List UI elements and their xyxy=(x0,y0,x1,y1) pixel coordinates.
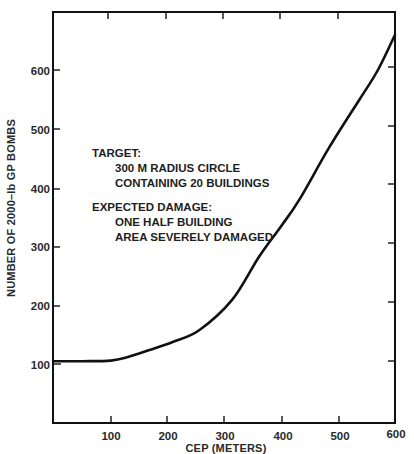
annotation-damage-heading: EXPECTED DAMAGE: xyxy=(92,201,212,213)
x-ticks-top xyxy=(108,12,338,19)
annotation-target-heading: TARGET: xyxy=(92,147,141,159)
x-tick-labels: 100 200 300 400 500 600 xyxy=(101,428,405,442)
x-tick-label: 500 xyxy=(330,430,349,442)
data-line xyxy=(54,35,395,362)
y-tick-label: 500 xyxy=(31,124,50,136)
y-tick-label: 100 xyxy=(31,359,50,371)
annotation-damage-line2: AREA SEVERELY DAMAGED xyxy=(115,231,273,243)
y-ticks-right xyxy=(388,67,395,361)
x-tick-label: 300 xyxy=(215,430,234,442)
y-axis-title: NUMBER OF 2000–lb GP BOMBS xyxy=(5,119,17,297)
annotation-block: TARGET: 300 M RADIUS CIRCLE CONTAINING 2… xyxy=(92,147,273,243)
x-tick-label: 200 xyxy=(158,430,177,442)
y-tick-label: 200 xyxy=(31,300,50,312)
x-tick-label: 400 xyxy=(273,430,292,442)
chart: 100 200 300 400 500 600 100 200 300 400 … xyxy=(0,0,414,454)
y-tick-label: 300 xyxy=(31,241,50,253)
y-ticks-left xyxy=(53,70,61,364)
x-tick-label: 600 xyxy=(386,428,405,440)
y-tick-label: 400 xyxy=(31,183,50,195)
y-tick-labels: 100 200 300 400 500 600 xyxy=(31,65,50,371)
y-tick-label: 600 xyxy=(31,65,50,77)
x-ticks-bottom xyxy=(111,416,339,423)
x-tick-label: 100 xyxy=(101,430,120,442)
annotation-damage-line1: ONE HALF BUILDING xyxy=(115,216,233,228)
annotation-target-line2: CONTAINING 20 BUILDINGS xyxy=(115,177,270,189)
x-axis-title: CEP (METERS) xyxy=(185,442,266,454)
annotation-target-line1: 300 M RADIUS CIRCLE xyxy=(115,162,241,174)
